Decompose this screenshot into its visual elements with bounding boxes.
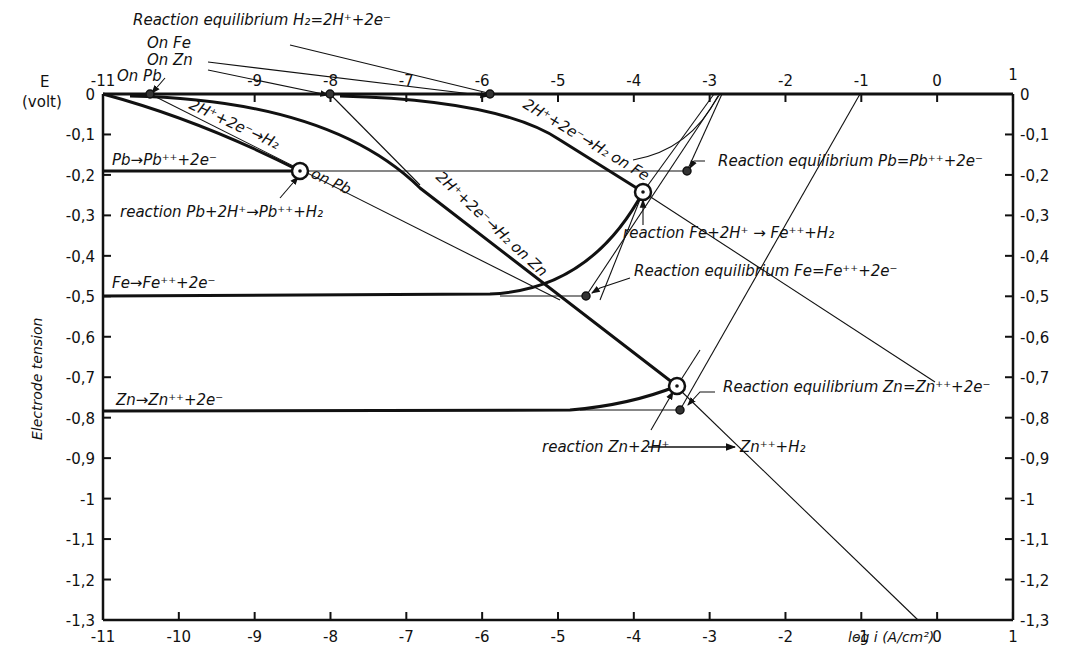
corrosion-points (292, 163, 685, 394)
y-tick-label-left: -0,5 (66, 288, 95, 306)
label-h2-on-zn: 2H⁺+2e⁻→H₂ on Zn (432, 168, 551, 281)
y-tick-label-left: -0,9 (66, 450, 95, 468)
y-tick-label-right: -1,2 (1020, 572, 1049, 590)
axis-ticks (103, 94, 1013, 620)
label-on-fe: On Fe (147, 34, 191, 52)
y-tick-label-left: -0,3 (66, 207, 95, 225)
y-tick-label-left: -1,1 (66, 531, 95, 549)
label-pb-anodic: Pb→Pb⁺⁺+2e⁻ (112, 151, 217, 169)
label-zn-anodic: Zn→Zn⁺⁺+2e⁻ (115, 391, 223, 409)
volt-unit-label: (volt) (22, 93, 62, 111)
y-tick-label-right: -0,6 (1020, 329, 1049, 347)
label-zn-reaction-b: Zn⁺⁺+H₂ (739, 438, 805, 456)
label-zn-equilibrium: Reaction equilibrium Zn=Zn⁺⁺+2e⁻ (723, 378, 990, 396)
label-fe-anodic: Fe→Fe⁺⁺+2e⁻ (112, 274, 215, 292)
polarization-diagram: -11-10-9-8-7-6-5-4-3-2-101-11-9-8-7-6-5-… (0, 0, 1066, 655)
x-tick-label-bottom: -5 (550, 628, 565, 646)
y-tick-label-left: -0,8 (66, 410, 95, 428)
y-axis-title: Electrode tension (29, 318, 45, 440)
label-pb-equilibrium: Reaction equilibrium Pb=Pb⁺⁺+2e⁻ (718, 152, 983, 170)
x-tick-label-bottom: -6 (475, 628, 490, 646)
y-tick-label-right: -0,9 (1020, 450, 1049, 468)
y-tick-label-right: -1 (1020, 491, 1035, 509)
x-tick-label-top: -5 (550, 72, 565, 90)
y-tick-label-right: -1,1 (1020, 531, 1049, 549)
x-tick-label-bottom: -3 (702, 628, 717, 646)
y-tick-label-right: -0,7 (1020, 369, 1049, 387)
label-h2-equilibrium: Reaction equilibrium H₂=2H⁺+2e⁻ (133, 11, 391, 29)
label-pb-reaction: reaction Pb+2H⁺→Pb⁺⁺+H₂ (120, 203, 323, 221)
label-on-pb: On Pb (117, 67, 162, 85)
x-axis-title: log i (A/cm²) (848, 629, 934, 645)
label-fe-reaction: reaction Fe+2H⁺ → Fe⁺⁺+H₂ (623, 224, 834, 242)
x-tick-label-bottom: -10 (167, 628, 192, 646)
x-tick-label-top: -6 (475, 72, 490, 90)
x-tick-label-top: -1 (854, 72, 869, 90)
y-tick-label-right: -0,1 (1020, 126, 1049, 144)
plot-frame (103, 94, 1013, 620)
y-tick-label-right: 0 (1020, 86, 1030, 104)
x-tick-label-top: 0 (932, 72, 942, 90)
x-tick-label-top: -4 (626, 72, 641, 90)
construction-lines (103, 45, 935, 620)
e-axis-label: E (40, 73, 49, 91)
y-tick-label-left: -0,6 (66, 329, 95, 347)
y-tick-label-right: -0,5 (1020, 288, 1049, 306)
x-tick-label-top: -8 (323, 72, 338, 90)
x-tick-label-bottom: 1 (1008, 628, 1018, 646)
y-tick-label-right: -1,3 (1020, 612, 1049, 630)
y-tick-label-right: -0,3 (1020, 207, 1049, 225)
y-tick-label-right: -0,8 (1020, 410, 1049, 428)
label-fe-equilibrium: Reaction equilibrium Fe=Fe⁺⁺+2e⁻ (634, 262, 897, 280)
y-tick-label-left: -1,3 (66, 612, 95, 630)
x-tick-label-top: -2 (778, 72, 793, 90)
x-tick-label-top: 1 (1008, 66, 1018, 84)
y-tick-label-left: -1,2 (66, 572, 95, 590)
x-tick-label-bottom: -8 (323, 628, 338, 646)
x-tick-label-bottom: -2 (778, 628, 793, 646)
y-tick-label-right: -0,2 (1020, 167, 1049, 185)
y-tick-label-left: -1 (80, 491, 95, 509)
x-tick-label-bottom: -11 (91, 628, 116, 646)
x-tick-label-top: -3 (702, 72, 717, 90)
y-tick-label-right: -0,4 (1020, 248, 1049, 266)
y-tick-label-left: -0,4 (66, 248, 95, 266)
y-tick-label-left: -0,1 (66, 126, 95, 144)
x-tick-label-bottom: -7 (399, 628, 414, 646)
x-tick-label-bottom: -9 (247, 628, 262, 646)
label-on-pb-small: on Pb (308, 164, 354, 198)
y-tick-label-left: -0,2 (66, 167, 95, 185)
y-tick-label-left: -0,7 (66, 369, 95, 387)
x-tick-label-bottom: -4 (626, 628, 641, 646)
y-tick-label-left: 0 (85, 86, 95, 104)
